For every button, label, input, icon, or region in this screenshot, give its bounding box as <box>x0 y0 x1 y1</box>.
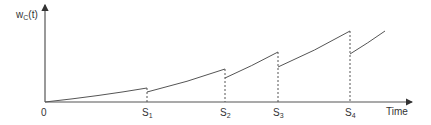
curve-segment-2 <box>147 69 225 92</box>
tick-label-s1: S1 <box>142 108 153 119</box>
origin-label: 0 <box>41 108 47 118</box>
tick-label-s3: S3 <box>273 108 284 119</box>
curve-segment-3 <box>225 52 278 78</box>
diagram-canvas <box>0 0 431 125</box>
x-axis-label: Time <box>386 107 408 117</box>
tick-label-s2: S2 <box>220 108 231 119</box>
curve-segment-5 <box>350 31 385 54</box>
curve-segment-4 <box>278 31 350 67</box>
curve-segment-1 <box>45 88 147 102</box>
y-axis-label: wC(t) <box>16 10 38 21</box>
tick-label-s4: S4 <box>345 108 356 119</box>
